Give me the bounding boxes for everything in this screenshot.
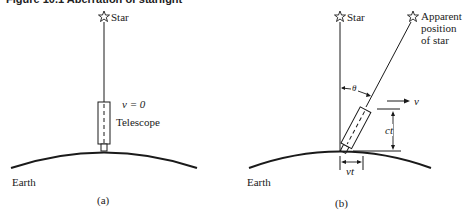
star-label-b: Star	[347, 11, 365, 23]
star-icon	[335, 11, 346, 22]
apparent-label-line3: of star	[421, 34, 449, 46]
earth-label-a: Earth	[12, 176, 36, 188]
apparent-label-line2: position	[421, 22, 456, 34]
earth-surface	[11, 153, 197, 169]
ct-label: ct	[385, 124, 393, 136]
arrow-right-icon	[404, 99, 410, 104]
velocity-label-b: v	[414, 95, 419, 107]
earth-label-b: Earth	[247, 176, 271, 188]
angle-label: θ	[352, 82, 356, 94]
apparent-star-icon	[408, 11, 419, 22]
apparent-line	[366, 22, 411, 107]
aberration-diagram	[0, 0, 467, 213]
star-icon	[99, 11, 110, 22]
panel-a-drawing	[11, 11, 197, 168]
telescope-label: Telescope	[116, 116, 160, 128]
panel-label-a: (a)	[97, 194, 109, 206]
telescope-icon	[98, 102, 110, 151]
panel-label-b: (b)	[335, 197, 348, 209]
star-label-a: Star	[111, 11, 129, 23]
telescope-icon	[338, 107, 371, 155]
velocity-label-a: v = 0	[122, 98, 145, 110]
apparent-label-line1: Apparent	[421, 10, 462, 22]
panel-b-drawing	[249, 11, 431, 170]
vt-label: vt	[346, 165, 354, 177]
